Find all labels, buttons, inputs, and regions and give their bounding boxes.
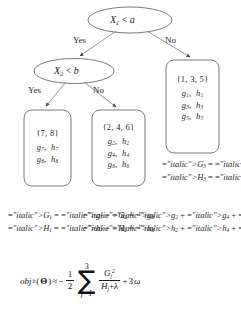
aggregation-2: ="italic">G2 = ="italic">g2 + ="italic">… xyxy=(83,209,241,236)
leaf-g-subscript: 6 xyxy=(112,164,115,170)
leaf-h-subscript: 4 xyxy=(126,152,129,158)
edge-label-root-yes: Yes xyxy=(73,36,86,45)
ratio-denominator: Hj+λ xyxy=(99,282,120,292)
internal-operator: < xyxy=(66,65,72,76)
leaf-h-subscript: 1 xyxy=(200,93,203,99)
leaf-h-subscript: 2 xyxy=(126,141,129,147)
summation-operator: 3 ∑ j=1 xyxy=(78,263,96,298)
decision-tree-diagram: X1 < a X2 < b Yes No Yes No {7, 8} g7, h… xyxy=(0,0,241,316)
aggregation-2-G: ="italic">G2 = ="italic">g2 + ="italic">… xyxy=(83,209,241,222)
objective-ratio-fraction: Gj2 Hj+λ xyxy=(99,269,120,292)
objective-fraction-numerator: 1 xyxy=(66,270,75,279)
objective-fraction-denominator: 2 xyxy=(66,282,75,291)
leaf-gh-row: g2, h2 xyxy=(92,136,145,147)
summation-lower-limit: j=1 xyxy=(81,290,93,298)
objective-relation: ≈ xyxy=(52,276,57,286)
objective-tail-coefficient: 3 xyxy=(129,276,134,286)
sigma-icon: ∑ xyxy=(78,270,96,291)
internal-node-label: X2 < b xyxy=(54,66,79,77)
leaf-content-3: {1, 3, 5} g1, h1 g3, h3 g5, h5 xyxy=(166,74,219,122)
leaf-h-subscript: 3 xyxy=(200,104,203,110)
leaf-set-1: {7, 8} xyxy=(24,128,71,139)
root-threshold: a xyxy=(130,14,135,25)
leaf-gh-row: g3, h3 xyxy=(166,100,219,111)
leaf-h-subscript: 7 xyxy=(55,147,58,153)
objective-tail-symbol: ω xyxy=(134,276,140,286)
root-node-label: X1 < a xyxy=(110,15,135,26)
aggregation-3: ="italic">G3 = ="italic">g1 + ="italic">… xyxy=(162,158,241,185)
edge-label-root-no: No xyxy=(165,36,176,45)
leaf-g-subscript: 2 xyxy=(112,141,115,147)
objective-sign: − xyxy=(58,276,63,286)
objective-tail-plus: + xyxy=(122,276,127,286)
objective-name-subscript: b xyxy=(33,278,36,284)
leaf-h-subscript: 5 xyxy=(200,116,203,122)
objective-half-fraction: 1 2 xyxy=(66,270,75,291)
objective-name: obj xyxy=(20,276,32,286)
leaf-g-subscript: 8 xyxy=(41,158,44,164)
internal-threshold: b xyxy=(74,65,79,76)
aggregation-2-H: ="italic">H2 = ="italic">h2 + ="italic">… xyxy=(83,222,241,235)
leaf-g-subscript: 7 xyxy=(41,147,44,153)
edge-label-internal-no: No xyxy=(93,86,104,95)
leaf-content-1: {7, 8} g7, h7 g8, h8 xyxy=(24,128,71,165)
edge-internal-yes xyxy=(46,82,66,106)
edge-label-internal-yes: Yes xyxy=(28,86,41,95)
leaf-gh-row: g7, h7 xyxy=(24,142,71,153)
leaf-content-2: {2, 4, 6} g2, h2 g4, h4 g6, h6 xyxy=(92,122,145,170)
leaf-set-2: {2, 4, 6} xyxy=(92,122,145,133)
leaf-gh-row: g5, h5 xyxy=(166,111,219,122)
leaf-set-3: {1, 3, 5} xyxy=(166,74,219,85)
leaf-g-subscript: 3 xyxy=(186,104,189,110)
aggregation-3-G: ="italic">G3 = ="italic">g1 + ="italic">… xyxy=(162,158,241,171)
leaf-g-subscript: 4 xyxy=(112,152,115,158)
leaf-gh-row: g6, h6 xyxy=(92,159,145,170)
leaf-h-subscript: 6 xyxy=(126,164,129,170)
leaf-h-subscript: 8 xyxy=(55,158,58,164)
aggregation-3-H: ="italic">H3 = ="italic">h1 + ="italic">… xyxy=(162,171,241,184)
internal-variable-subscript: 2 xyxy=(60,70,63,77)
leaf-gh-row: g4, h4 xyxy=(92,148,145,159)
leaf-gh-row: g1, h1 xyxy=(166,88,219,99)
objective-equation: objb(Θ) ≈ − 1 2 3 ∑ j=1 Gj2 Hj+λ xyxy=(20,263,140,298)
leaf-g-subscript: 5 xyxy=(186,116,189,122)
root-variable-subscript: 1 xyxy=(116,19,119,26)
leaf-g-subscript: 1 xyxy=(186,93,189,99)
objective-argument: Θ xyxy=(40,276,47,286)
ratio-numerator: Gj2 xyxy=(102,269,117,279)
leaf-gh-row: g8, h8 xyxy=(24,154,71,165)
root-operator: < xyxy=(122,14,128,25)
